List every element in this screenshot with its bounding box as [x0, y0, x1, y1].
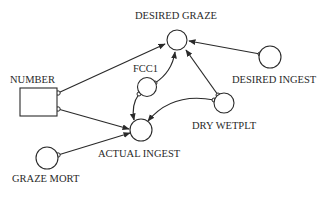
node-label-dry-wetplt: DRY WETPLT [192, 120, 257, 131]
link-number-to-actual-ingest[interactable] [58, 109, 129, 129]
converter-circle-icon [130, 119, 152, 141]
node-label-fcc1: FCC1 [133, 63, 158, 74]
node-label-desired-ingest: DESIRED INGEST [232, 74, 317, 85]
link-dry-wetplt-to-desired-graze[interactable] [186, 50, 218, 95]
converter-circle-icon [259, 46, 281, 68]
converter-circle-icon [138, 78, 157, 97]
converter-circle-icon [167, 30, 187, 50]
converter-circle-icon [36, 147, 58, 169]
stock-box-icon [20, 88, 57, 116]
node-fcc1[interactable]: FCC1 [133, 63, 158, 97]
node-label-desired-graze: DESIRED GRAZE [135, 10, 217, 21]
node-label-actual-ingest: ACTUAL INGEST [98, 148, 181, 159]
node-desired-ingest[interactable]: DESIRED INGEST [232, 46, 317, 85]
node-number[interactable]: NUMBER [10, 74, 57, 116]
link-fcc1-to-actual-ingest[interactable] [133, 94, 139, 120]
node-label-number: NUMBER [10, 74, 55, 85]
link-desired-ingest-to-desired-graze[interactable] [189, 41, 260, 54]
node-graze-mort[interactable]: GRAZE MORT [12, 147, 80, 184]
link-dry-wetplt-to-actual-ingest[interactable] [148, 98, 214, 121]
node-label-graze-mort: GRAZE MORT [12, 173, 80, 184]
influence-diagram: NUMBER DESIRED GRAZE FCC1 DESIRED INGEST… [0, 0, 328, 201]
converter-circle-icon [214, 93, 234, 113]
